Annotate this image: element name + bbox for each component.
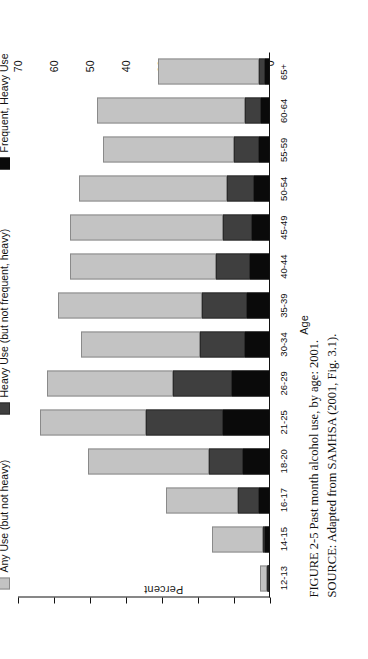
bar-segment-frequent-30-34 — [245, 331, 270, 357]
figure-container: Any Use (but not heavy)Heavy Use (but no… — [0, 0, 368, 659]
legend-item-any: Any Use (but not heavy) — [0, 459, 10, 589]
caption-line-2: SOURCE: Adapted from SAMHSA (2001, Fig. … — [324, 37, 342, 597]
bar-group-30-34: 30-34 — [81, 331, 270, 357]
bar-segment-frequent-26-29 — [232, 370, 270, 396]
bar-group-65+: 65+ — [158, 58, 270, 84]
y-tick-40 — [126, 597, 127, 603]
y-tick-60 — [54, 597, 55, 603]
legend-label-frequent: Frequent, Heavy Use — [0, 53, 10, 152]
bar-group-35-39: 35-39 — [58, 292, 270, 318]
x-tick-label-40-44: 40-44 — [278, 254, 289, 278]
y-tick-50 — [90, 597, 91, 603]
legend-swatch-heavy-icon — [0, 402, 10, 414]
bar-segment-heavy-55-59 — [234, 136, 259, 162]
x-tick-label-45-49: 45-49 — [278, 215, 289, 239]
bar-segment-heavy-50-54 — [227, 175, 254, 201]
bar-segment-frequent-50-54 — [254, 175, 270, 201]
y-tick-20 — [198, 597, 199, 603]
bar-segment-frequent-45-49 — [252, 214, 270, 240]
bar-segment-heavy-16-17 — [238, 487, 260, 513]
figure-caption: FIGURE 2-5 Past month alcohol use, by ag… — [306, 37, 342, 597]
bar-segment-frequent-21-25 — [223, 409, 270, 435]
x-tick-label-65+: 65+ — [278, 63, 289, 79]
x-tick-label-14-15: 14-15 — [278, 526, 289, 550]
bar-segment-heavy-65+ — [259, 58, 264, 84]
bar-segment-any-16-17 — [166, 487, 238, 513]
x-tick-label-16-17: 16-17 — [278, 488, 289, 512]
bar-segment-heavy-60-64 — [245, 97, 261, 123]
y-tick-70 — [18, 597, 19, 603]
age-axis-line — [269, 52, 270, 597]
bar-group-18-20: 18-20 — [88, 448, 270, 474]
bar-segment-any-55-59 — [103, 136, 234, 162]
rotated-page-stage: Any Use (but not heavy)Heavy Use (but no… — [0, 0, 368, 659]
bar-segment-any-60-64 — [97, 97, 245, 123]
bar-segment-any-30-34 — [81, 331, 200, 357]
bar-segment-any-45-49 — [70, 214, 223, 240]
chart-legend: Any Use (but not heavy)Heavy Use (but no… — [0, 49, 18, 589]
caption-line-1: FIGURE 2-5 Past month alcohol use, by ag… — [306, 37, 324, 597]
legend-item-heavy: Heavy Use (but not frequent, heavy) — [0, 228, 10, 414]
bar-segment-any-12-13 — [260, 565, 266, 591]
y-tick-0 — [270, 597, 271, 603]
x-tick-label-18-20: 18-20 — [278, 449, 289, 473]
bar-segment-heavy-18-20 — [209, 448, 243, 474]
bar-segment-heavy-21-25 — [146, 409, 223, 435]
x-tick-label-21-25: 21-25 — [278, 410, 289, 434]
bar-segment-heavy-30-34 — [200, 331, 245, 357]
x-tick-label-30-34: 30-34 — [278, 332, 289, 356]
bar-segment-any-21-25 — [40, 409, 146, 435]
y-tick-10 — [234, 597, 235, 603]
bar-group-45-49: 45-49 — [70, 214, 270, 240]
bar-segment-any-40-44 — [70, 253, 216, 279]
bar-group-60-64: 60-64 — [97, 97, 270, 123]
legend-swatch-any-icon — [0, 577, 10, 589]
bar-group-55-59: 55-59 — [103, 136, 270, 162]
bar-group-21-25: 21-25 — [40, 409, 270, 435]
legend-item-frequent: Frequent, Heavy Use — [0, 53, 10, 169]
bar-group-50-54: 50-54 — [79, 175, 270, 201]
x-tick-label-26-29: 26-29 — [278, 371, 289, 395]
bar-segment-any-14-15 — [212, 526, 262, 552]
bar-group-26-29: 26-29 — [47, 370, 270, 396]
plot-area: 010203040506070 Percent 12-1314-1516-171… — [18, 52, 270, 597]
bar-segment-heavy-26-29 — [173, 370, 232, 396]
bar-segment-any-50-54 — [79, 175, 227, 201]
bar-segment-heavy-45-49 — [223, 214, 252, 240]
bar-segment-any-35-39 — [58, 292, 202, 318]
y-tick-30 — [162, 597, 163, 603]
bar-segment-frequent-35-39 — [247, 292, 270, 318]
bar-segment-frequent-18-20 — [243, 448, 270, 474]
bar-group-14-15: 14-15 — [212, 526, 270, 552]
bar-segment-any-26-29 — [47, 370, 173, 396]
x-tick-label-35-39: 35-39 — [278, 293, 289, 317]
x-tick-label-55-59: 55-59 — [278, 137, 289, 161]
bar-segment-any-65+ — [158, 58, 259, 84]
bar-group-40-44: 40-44 — [70, 253, 270, 279]
x-tick-label-60-64: 60-64 — [278, 98, 289, 122]
bar-series-group: 12-1314-1516-1718-2021-2526-2930-3435-39… — [18, 52, 270, 597]
legend-label-heavy: Heavy Use (but not frequent, heavy) — [0, 228, 10, 397]
bar-segment-heavy-40-44 — [216, 253, 250, 279]
bar-segment-heavy-35-39 — [202, 292, 247, 318]
x-tick-label-12-13: 12-13 — [278, 565, 289, 589]
x-tick-label-50-54: 50-54 — [278, 176, 289, 200]
bar-segment-heavy-14-15 — [263, 526, 265, 552]
bar-group-16-17: 16-17 — [166, 487, 270, 513]
bar-segment-frequent-40-44 — [250, 253, 270, 279]
legend-swatch-frequent-icon — [0, 157, 10, 169]
legend-label-any: Any Use (but not heavy) — [0, 459, 10, 572]
bar-segment-any-18-20 — [88, 448, 209, 474]
